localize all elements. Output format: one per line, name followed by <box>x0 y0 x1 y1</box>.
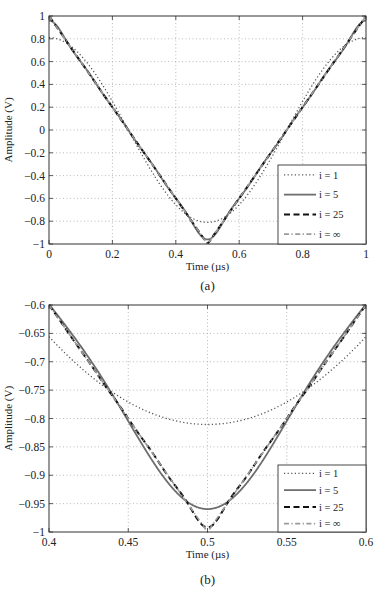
y-tick-label: 1 <box>39 10 45 22</box>
legend-label: i = 5 <box>319 485 338 496</box>
y-tick-label: 0.2 <box>31 101 46 113</box>
legend-label: i = ∞ <box>319 518 341 529</box>
figure-caption: (a) <box>200 278 214 293</box>
x-tick-label: 0.45 <box>118 536 138 548</box>
x-tick-label: 0.6 <box>232 248 247 260</box>
x-tick-label: 0.6 <box>359 536 374 548</box>
y-tick-label: −0.65 <box>18 327 45 339</box>
y-tick-label: 0.4 <box>31 78 46 90</box>
x-tick-label: 0.55 <box>277 536 297 548</box>
legend: i = 1i = 5i = 25i = ∞ <box>278 165 366 244</box>
y-tick-label: −0.75 <box>18 384 45 396</box>
legend-label: i = 1 <box>319 468 338 479</box>
y-tick-label: −0.8 <box>24 215 45 227</box>
x-tick-label: 0.2 <box>105 248 120 260</box>
y-tick-label: −0.2 <box>24 147 45 159</box>
x-tick-label: 0 <box>46 248 52 260</box>
x-tick-label: 1 <box>363 248 369 260</box>
chart-b: 0.40.450.50.550.6−1−0.95−0.9−0.85−0.8−0.… <box>2 299 373 587</box>
y-tick-label: −1 <box>33 526 45 538</box>
legend-label: i = 25 <box>319 502 344 513</box>
x-axis-label: Time (µs) <box>186 548 230 561</box>
chart-a: 00.20.40.60.81−1−0.8−0.6−0.4−0.200.20.40… <box>2 10 369 293</box>
x-tick-label: 0.8 <box>295 248 310 260</box>
figure: 00.20.40.60.81−1−0.8−0.6−0.4−0.200.20.40… <box>0 0 384 596</box>
legend-label: i = ∞ <box>319 229 341 240</box>
y-tick-label: −0.85 <box>18 441 45 453</box>
legend-label: i = 5 <box>319 189 338 200</box>
x-tick-label: 0.4 <box>169 248 184 260</box>
y-tick-label: 0.8 <box>31 33 46 45</box>
y-tick-label: −0.6 <box>24 192 45 204</box>
y-tick-label: −0.6 <box>24 299 45 311</box>
legend: i = 1i = 5i = 25i = ∞ <box>278 465 366 532</box>
y-tick-label: 0.6 <box>31 56 46 68</box>
x-tick-label: 0.5 <box>200 536 215 548</box>
series-line-dotted <box>49 337 366 425</box>
figure-caption: (b) <box>200 572 215 587</box>
y-tick-label: −0.9 <box>24 469 45 481</box>
y-tick-label: −1 <box>33 238 45 250</box>
y-tick-label: −0.4 <box>24 170 45 182</box>
legend-label: i = 1 <box>319 170 338 181</box>
y-tick-label: 0 <box>39 124 45 136</box>
legend-label: i = 25 <box>319 209 344 220</box>
y-tick-label: −0.7 <box>24 356 45 368</box>
y-axis-label: Amplitude (V) <box>2 97 15 162</box>
y-tick-label: −0.95 <box>18 498 45 510</box>
x-axis-label: Time (µs) <box>186 260 230 273</box>
y-tick-label: −0.8 <box>24 413 45 425</box>
y-axis-label: Amplitude (V) <box>2 386 15 451</box>
